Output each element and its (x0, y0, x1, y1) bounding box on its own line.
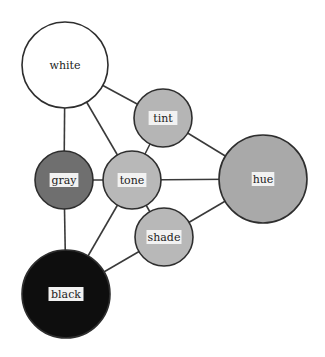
tint-label: tint (153, 112, 173, 125)
node-hue: hue (219, 135, 307, 223)
shade-label: shade (148, 231, 181, 244)
node-tone: tone (103, 151, 161, 209)
node-black: black (22, 250, 110, 338)
gray-label: gray (51, 174, 77, 187)
node-white: white (22, 22, 108, 108)
black-label: black (51, 288, 81, 301)
color-relationship-diagram: whitetintgraytonehueshadeblack (0, 0, 325, 357)
hue-label: hue (253, 173, 274, 186)
white-label: white (50, 59, 81, 72)
tone-label: tone (120, 174, 145, 187)
node-shade: shade (135, 208, 193, 266)
node-tint: tint (134, 89, 192, 147)
node-gray: gray (35, 151, 93, 209)
